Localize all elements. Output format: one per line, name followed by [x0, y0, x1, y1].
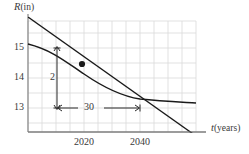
- y-axis-title: R(in): [14, 2, 34, 13]
- x-axis-title: t(years): [211, 123, 240, 134]
- run-annotation-label: 30: [84, 102, 94, 112]
- y-tick-label-15: 15: [2, 42, 24, 52]
- x-tick-label-2020: 2020: [64, 137, 104, 147]
- graph-figure: R(in) t(years) 15 14 13 2020 2040 2 30: [0, 0, 249, 154]
- x-axis-title-unit: (years): [214, 123, 240, 133]
- y-tick-label-13: 13: [2, 102, 24, 112]
- y-axis-title-unit: (in): [20, 2, 34, 12]
- annotation-arrows: [54, 47, 141, 112]
- x-tick-label-2040: 2040: [120, 137, 160, 147]
- tangency-point-marker: [79, 61, 85, 67]
- y-tick-label-14: 14: [2, 72, 24, 82]
- rise-annotation-label: 2: [50, 72, 55, 82]
